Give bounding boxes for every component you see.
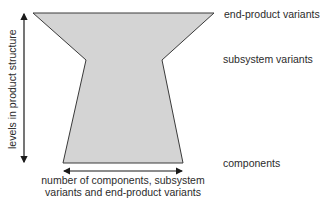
variety-funnel-shape — [33, 13, 214, 163]
horizontal-axis-label-line2: variants and end-product variants — [30, 186, 216, 198]
horizontal-axis-label-line1: number of components, subsystem — [30, 174, 216, 186]
level-label-subsystem-variants: subsystem variants — [223, 53, 313, 65]
horizontal-axis-label: number of components, subsystem variants… — [30, 174, 216, 198]
level-label-end-product-variants: end-product variants — [224, 8, 320, 20]
vertical-axis-label: levels in product structure — [6, 29, 18, 149]
level-label-components: components — [223, 157, 280, 169]
